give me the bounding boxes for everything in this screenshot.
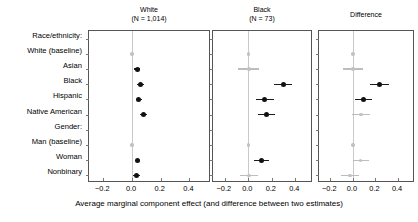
forest-plot-figure: White (N = 1,014) Black (N = 73) Differe… <box>0 0 418 222</box>
panel-title-black: Black (N = 73) <box>212 6 312 23</box>
y-tick <box>316 99 319 100</box>
point-estimate <box>130 52 133 55</box>
panel-difference <box>318 30 414 182</box>
point-estimate <box>247 67 250 70</box>
point-estimate <box>247 174 250 177</box>
point-estimate <box>138 82 143 87</box>
panel-title-black-sublabel: (N = 73) <box>212 15 312 24</box>
x-tick-label: 0.2 <box>155 185 165 193</box>
x-tick-label: 0.2 <box>266 185 276 193</box>
x-tick-label: 0.0 <box>347 185 357 193</box>
point-estimate <box>351 143 354 146</box>
x-tick <box>103 178 104 181</box>
point-estimate <box>351 52 354 55</box>
y-tick <box>86 84 89 85</box>
x-tick <box>398 178 399 181</box>
y-tick <box>86 160 89 161</box>
y-tick <box>86 39 89 40</box>
category-label-man-baseline: Man (baseline) <box>32 138 82 146</box>
x-tick <box>248 178 249 181</box>
x-tick <box>161 178 162 181</box>
x-tick <box>375 178 376 181</box>
x-tick <box>272 178 273 181</box>
point-estimate <box>247 52 250 55</box>
x-tick-label: −0.2 <box>322 185 337 193</box>
point-estimate <box>262 97 267 102</box>
x-tick-label: −0.2 <box>95 185 110 193</box>
point-estimate <box>134 173 139 178</box>
point-estimate <box>135 158 140 163</box>
x-tick <box>295 178 296 181</box>
panel-title-white-label: White <box>88 6 210 15</box>
x-tick-label: 0.2 <box>369 185 379 193</box>
category-label-nonbinary: Nonbinary <box>47 168 82 176</box>
category-label-gender: Gender: <box>55 123 82 131</box>
y-tick <box>86 175 89 176</box>
category-label-native-american: Native American <box>27 108 82 116</box>
point-estimate <box>136 97 141 102</box>
y-tick <box>316 115 319 116</box>
x-tick <box>330 178 331 181</box>
y-tick <box>316 175 319 176</box>
x-tick-label: 0.4 <box>392 185 402 193</box>
point-estimate <box>359 113 362 116</box>
y-tick <box>316 39 319 40</box>
y-tick <box>316 84 319 85</box>
y-tick <box>86 115 89 116</box>
y-tick <box>210 175 213 176</box>
x-tick <box>132 178 133 181</box>
y-tick <box>316 130 319 131</box>
x-tick <box>225 178 226 181</box>
y-tick <box>86 69 89 70</box>
panel-black <box>212 30 312 182</box>
category-label-hispanic: Hispanic <box>53 92 82 100</box>
panel-title-white: White (N = 1,014) <box>88 6 210 23</box>
y-tick <box>210 99 213 100</box>
y-tick <box>86 99 89 100</box>
point-estimate <box>259 158 264 163</box>
y-tick <box>210 130 213 131</box>
category-label-woman: Woman <box>56 153 82 161</box>
x-tick-label: 0.4 <box>183 185 193 193</box>
category-label-white-baseline: White (baseline) <box>27 47 82 55</box>
category-label-black: Black <box>63 77 82 85</box>
panel-title-difference: Difference <box>318 11 414 20</box>
panel-white <box>88 30 210 182</box>
point-estimate <box>247 143 250 146</box>
point-estimate <box>361 97 366 102</box>
category-label-race-ethnicity: Race/ethnicity: <box>32 32 82 40</box>
y-tick <box>210 84 213 85</box>
y-tick <box>210 69 213 70</box>
y-tick <box>316 145 319 146</box>
y-tick <box>210 160 213 161</box>
point-estimate <box>130 143 133 146</box>
y-tick <box>210 145 213 146</box>
point-estimate <box>348 174 351 177</box>
y-tick <box>316 160 319 161</box>
point-estimate <box>351 67 354 70</box>
point-estimate <box>141 112 146 117</box>
y-tick <box>316 54 319 55</box>
y-tick <box>316 69 319 70</box>
y-tick <box>210 115 213 116</box>
x-tick <box>353 178 354 181</box>
x-tick-label: −0.2 <box>216 185 231 193</box>
point-estimate <box>135 67 140 72</box>
x-axis-title: Average marginal component effect (and d… <box>0 199 418 208</box>
y-tick <box>86 145 89 146</box>
y-tick <box>86 54 89 55</box>
y-tick <box>210 54 213 55</box>
panel-title-white-sublabel: (N = 1,014) <box>88 15 210 24</box>
panel-title-difference-label: Difference <box>318 11 414 20</box>
x-tick-label: 0.4 <box>289 185 299 193</box>
panel-title-black-label: Black <box>212 6 312 15</box>
point-estimate <box>281 82 286 87</box>
point-estimate <box>377 82 382 87</box>
y-tick <box>86 130 89 131</box>
category-label-asian: Asian <box>63 62 82 70</box>
y-tick <box>210 39 213 40</box>
point-estimate <box>264 112 269 117</box>
x-tick <box>189 178 190 181</box>
x-tick-label: 0.0 <box>242 185 252 193</box>
x-tick-label: 0.0 <box>126 185 136 193</box>
